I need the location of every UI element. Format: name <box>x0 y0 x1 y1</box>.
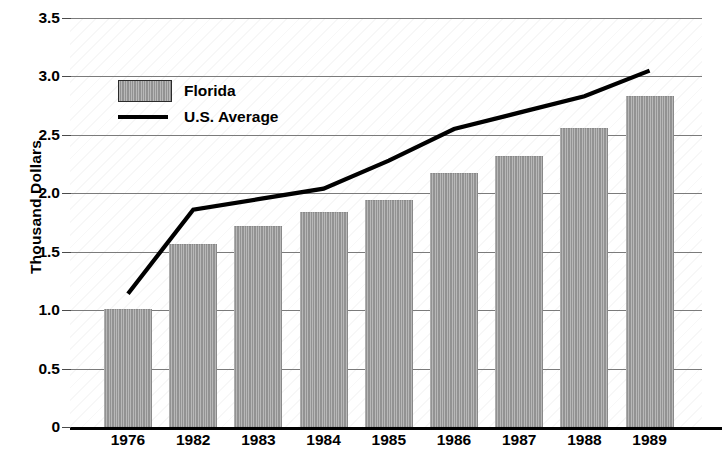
legend-label-us-average: U.S. Average <box>184 108 278 126</box>
y-axis-tick-label: 0 <box>14 419 60 435</box>
legend-item-florida[interactable]: Florida <box>118 78 308 104</box>
y-axis-tick-mark <box>62 427 71 428</box>
y-axis-tick-mark <box>62 369 71 370</box>
x-axis-tick-label: 1983 <box>223 432 293 448</box>
legend-label-florida: Florida <box>184 82 236 100</box>
bar <box>234 226 282 427</box>
line-swatch-stroke <box>118 115 168 119</box>
x-axis-tick-label: 1988 <box>549 432 619 448</box>
chart-legend: Florida U.S. Average <box>118 78 308 130</box>
bar <box>560 128 608 427</box>
bar <box>430 173 478 427</box>
y-axis-tick-label: 0.5 <box>14 361 60 377</box>
x-axis-tick-label: 1985 <box>354 432 424 448</box>
y-axis-tick-mark <box>62 193 71 194</box>
bar <box>495 156 543 427</box>
x-axis-tick-label: 1987 <box>484 432 554 448</box>
y-axis-tick-mark <box>62 252 71 253</box>
y-axis-tick-mark <box>62 76 71 77</box>
line-swatch-icon <box>118 106 172 128</box>
legend-item-us-average[interactable]: U.S. Average <box>118 104 308 130</box>
bar <box>169 244 217 427</box>
y-axis-tick-label: 1.0 <box>14 302 60 318</box>
x-axis-tick-label: 1989 <box>615 432 685 448</box>
bar <box>365 200 413 427</box>
y-axis-tick-label: 2.0 <box>14 185 60 201</box>
x-axis-tick-label: 1982 <box>158 432 228 448</box>
x-axis-tick-label: 1976 <box>93 432 163 448</box>
bar <box>300 212 348 427</box>
y-axis-tick-label: 2.5 <box>14 127 60 143</box>
y-axis-tick-mark <box>62 18 71 19</box>
y-axis-tick-label: 3.5 <box>14 10 60 26</box>
x-axis-tick-label: 1986 <box>419 432 489 448</box>
bar <box>104 309 152 427</box>
y-axis-tick-mark <box>62 135 71 136</box>
x-axis-line <box>70 427 722 430</box>
y-axis-tick-mark <box>62 310 71 311</box>
y-axis-tick-label: 3.0 <box>14 68 60 84</box>
y-axis-tick-label: 1.5 <box>14 244 60 260</box>
chart-container: Thousand Dollars 3.53.02.52.01.51.00.50 … <box>0 0 722 467</box>
bar-swatch-icon <box>118 80 172 102</box>
gridline <box>70 18 702 19</box>
x-axis-tick-label: 1984 <box>289 432 359 448</box>
bar <box>626 96 674 427</box>
